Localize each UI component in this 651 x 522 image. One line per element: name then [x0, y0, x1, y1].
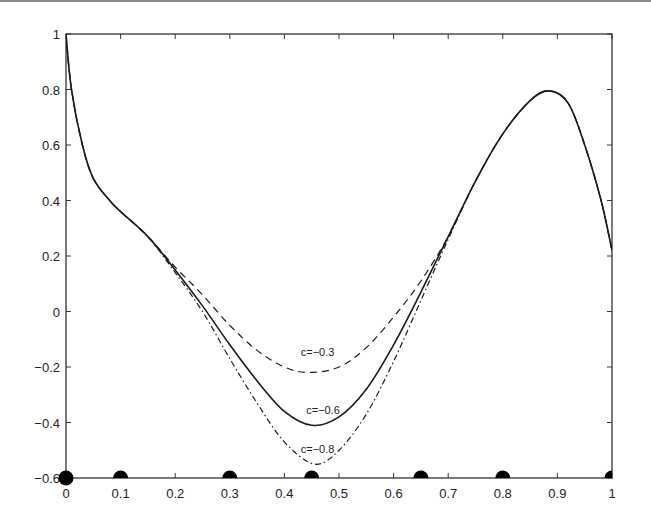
x-tick-label: 0.7	[439, 486, 457, 501]
y-tick-label: 0.4	[42, 194, 60, 209]
y-tick-label: 0.2	[42, 249, 60, 264]
node-marker	[605, 471, 620, 486]
node-marker	[113, 471, 128, 486]
curve-label-text: c=−0.8	[301, 443, 335, 455]
x-tick-label: 0.4	[275, 486, 293, 501]
y-tick-label: 0.6	[42, 138, 60, 153]
x-axis-tick-labels: 00.10.20.30.40.50.60.70.80.91	[62, 486, 615, 501]
node-marker	[304, 471, 319, 486]
x-tick-label: 0.8	[494, 486, 512, 501]
x-tick-label: 0.1	[112, 486, 130, 501]
line-chart: 00.10.20.30.40.50.60.70.80.91 −0.6−0.4−0…	[0, 0, 651, 522]
x-tick-label: 0.2	[166, 486, 184, 501]
x-tick-label: 0.6	[385, 486, 403, 501]
node-marker	[59, 471, 74, 486]
node-marker	[495, 471, 510, 486]
y-tick-label: 1	[53, 27, 60, 42]
x-tick-label: 1	[608, 486, 615, 501]
curve-labels: c=−0.3c=−0.6c=−0.8	[301, 346, 340, 455]
y-tick-label: 0.8	[42, 83, 60, 98]
curves	[66, 34, 612, 464]
y-axis-tick-labels: −0.6−0.4−0.200.20.40.60.81	[34, 27, 60, 486]
curve-label-text: c=−0.6	[306, 404, 340, 416]
x-tick-label: 0.5	[330, 486, 348, 501]
y-tick-label: −0.6	[34, 471, 60, 486]
curve-label-text: c=−0.3	[301, 346, 335, 358]
node-marker	[413, 471, 428, 486]
x-tick-label: 0.9	[548, 486, 566, 501]
x-tick-label: 0.3	[221, 486, 239, 501]
curve-c-0-8	[66, 34, 612, 464]
node-marker	[222, 471, 237, 486]
x-tick-label: 0	[62, 486, 69, 501]
y-tick-label: 0	[53, 305, 60, 320]
y-tick-label: −0.4	[34, 416, 60, 431]
y-tick-label: −0.2	[34, 360, 60, 375]
curve-c-0-3	[66, 34, 612, 373]
